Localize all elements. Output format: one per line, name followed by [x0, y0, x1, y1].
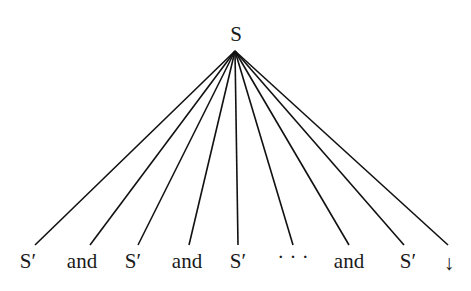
tree-leaves: S′andS′andS′· · ·andS′↓ [20, 245, 454, 275]
leaf-node: · · · [277, 245, 308, 269]
tree-edge [189, 51, 235, 245]
leaf-node: S′ [400, 249, 416, 273]
leaf-node: and [334, 249, 365, 273]
root-node-s: S [230, 22, 242, 46]
leaf-node: S′ [125, 249, 141, 273]
tree-edge [235, 51, 349, 245]
tree-edge [35, 51, 235, 245]
tree-edge [235, 51, 448, 245]
tree-edge [138, 51, 235, 245]
leaf-node: S′ [20, 249, 36, 273]
tree-edge [90, 51, 235, 245]
tree-edge [235, 51, 404, 245]
leaf-node: and [67, 249, 98, 273]
tree-edges [35, 51, 448, 245]
leaf-node: and [172, 249, 203, 273]
leaf-node: ↓ [444, 251, 455, 275]
tree-edge [235, 51, 293, 245]
tree-edge [235, 51, 238, 245]
leaf-node: S′ [230, 249, 246, 273]
tree-diagram: S S′andS′andS′· · ·andS′↓ [0, 0, 471, 291]
